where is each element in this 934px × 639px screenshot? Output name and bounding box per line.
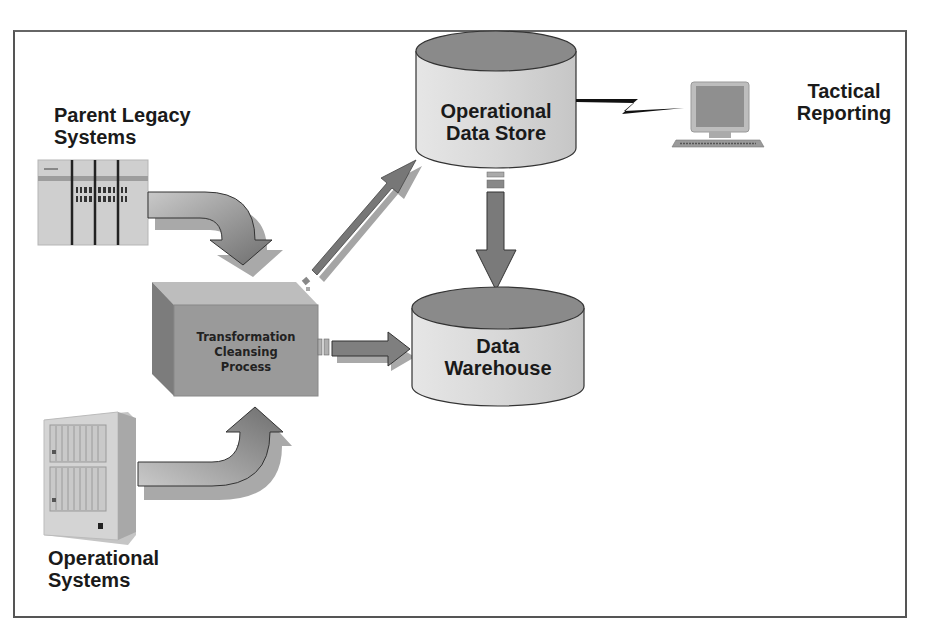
operational-to-transform-arrow <box>138 407 292 500</box>
ods-to-warehouse-arrow <box>476 172 516 290</box>
transformation-label: Transformation Cleansing Process <box>178 330 314 375</box>
parent-legacy-systems-label: Parent Legacy Systems <box>54 104 191 149</box>
transform-to-warehouse-arrow <box>318 332 415 371</box>
ods-label: Operational Data Store <box>416 100 576 145</box>
lightning-link-icon <box>576 99 684 114</box>
legacy-to-transform-arrow <box>148 192 283 277</box>
desktop-computer-icon <box>672 82 764 147</box>
server-cabinet-icon <box>44 412 136 545</box>
mainframe-rack-icon <box>38 160 148 245</box>
operational-systems-label: Operational Systems <box>48 547 159 592</box>
tactical-reporting-label: Tactical Reporting <box>788 80 900 125</box>
warehouse-label: Data Warehouse <box>412 335 584 380</box>
transform-to-ods-arrow <box>302 160 422 291</box>
